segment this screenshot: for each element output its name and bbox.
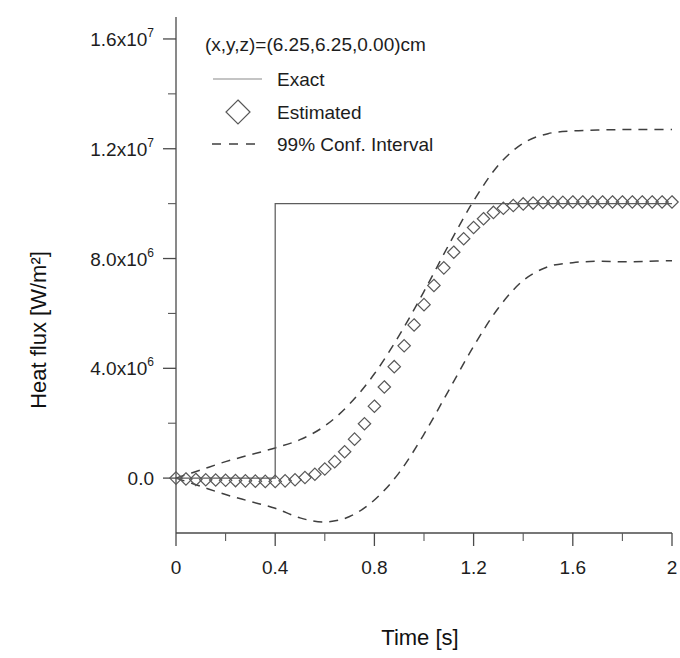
x-axis-tick-labels: 00.40.81.21.62: [171, 557, 678, 578]
x-tick-label-2: 0.8: [361, 557, 387, 578]
estimated-marker: [368, 400, 380, 412]
x-tick-label-0: 0: [171, 557, 182, 578]
x-tick-label-4: 1.6: [560, 557, 586, 578]
x-tick-label-1: 0.4: [262, 557, 289, 578]
x-tick-label-5: 2: [667, 557, 678, 578]
y-axis-ticks: [163, 39, 176, 478]
estimated-marker: [378, 381, 390, 393]
exact-step-curve: [176, 204, 672, 478]
y-tick-label-2: 8.0x106: [90, 246, 154, 270]
heat-flux-chart: 0.04.0x1068.0x1061.2x1071.6x107 00.40.81…: [0, 0, 680, 658]
estimated-marker: [348, 433, 360, 445]
legend-label-confidence-interval: 99% Conf. Interval: [277, 134, 433, 155]
x-axis-minor-ticks: [226, 533, 623, 541]
estimated-data-markers: [170, 196, 678, 488]
y-tick-label-4: 1.6x107: [90, 26, 154, 50]
estimated-marker: [477, 213, 489, 225]
estimated-marker: [329, 455, 341, 467]
estimated-marker: [398, 340, 410, 352]
y-axis-title: Heat flux [W/m²]: [26, 251, 51, 409]
legend-diamond-icon: [226, 100, 250, 124]
estimated-marker: [507, 199, 519, 211]
x-tick-label-3: 1.2: [460, 557, 486, 578]
y-axis-tick-labels: 0.04.0x1068.0x1061.2x1071.6x107: [90, 26, 154, 489]
estimated-marker: [388, 360, 400, 372]
estimated-marker: [358, 418, 370, 430]
estimated-marker: [408, 319, 420, 331]
x-axis-title: Time [s]: [381, 625, 458, 650]
y-tick-label-0: 0.0: [128, 468, 154, 489]
legend-label-exact: Exact: [277, 69, 325, 90]
y-tick-label-1: 4.0x106: [90, 355, 154, 379]
y-tick-label-3: 1.2x107: [90, 136, 154, 160]
estimated-marker: [448, 246, 460, 258]
legend-annotation: (x,y,z)=(6.25,6.25,0.00)cm: [205, 34, 426, 55]
estimated-marker: [467, 221, 479, 233]
estimated-marker: [338, 446, 350, 458]
estimated-marker: [418, 298, 430, 310]
confidence-interval-upper-curve: [176, 129, 672, 478]
legend-label-estimated: Estimated: [277, 102, 361, 123]
legend: (x,y,z)=(6.25,6.25,0.00)cm Exact Estimat…: [205, 34, 433, 155]
figure-container: 0.04.0x1068.0x1061.2x1071.6x107 00.40.81…: [0, 0, 680, 658]
estimated-marker: [457, 233, 469, 245]
